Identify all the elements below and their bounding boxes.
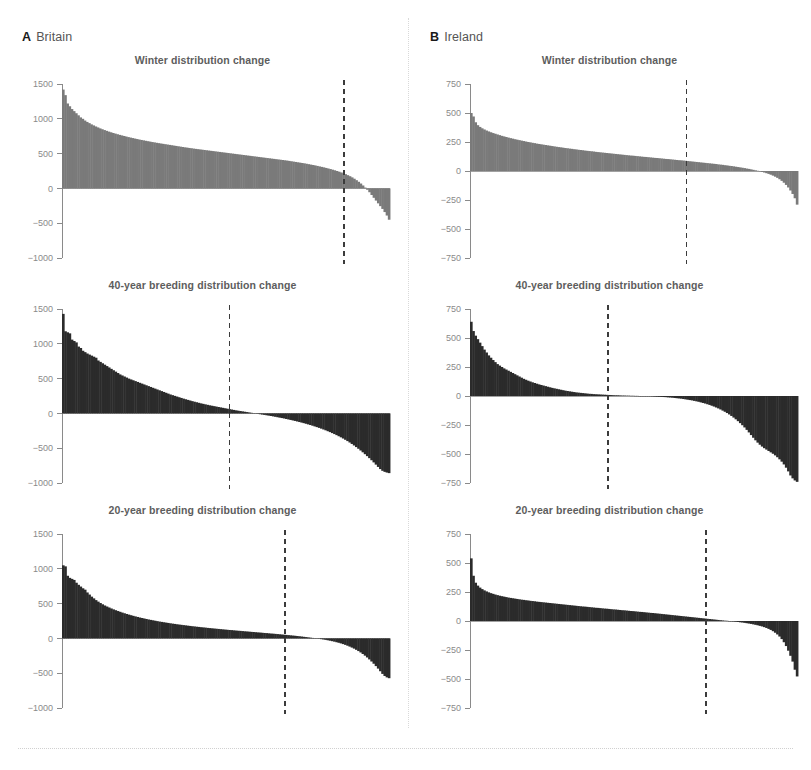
svg-text:−1000: −1000 <box>28 478 53 488</box>
chart-title-ireland-40yr: 40-year breeding distribution change <box>408 279 811 291</box>
chart-block-ireland-winter: Winter distribution change 7505002500−25… <box>408 50 811 275</box>
svg-text:1000: 1000 <box>33 564 53 574</box>
svg-text:−500: −500 <box>441 674 461 684</box>
svg-text:−250: −250 <box>441 645 461 655</box>
svg-text:0: 0 <box>456 616 461 626</box>
svg-text:−500: −500 <box>441 449 461 459</box>
svg-text:−1000: −1000 <box>28 703 53 713</box>
svg-text:0: 0 <box>48 409 53 419</box>
panel-letter-a: A <box>22 30 31 44</box>
svg-text:1500: 1500 <box>33 79 53 89</box>
svg-text:500: 500 <box>38 374 53 384</box>
svg-text:500: 500 <box>446 333 461 343</box>
svg-text:0: 0 <box>456 391 461 401</box>
chart-canvas-britain-winter: 150010005000−500−1000 <box>0 76 405 271</box>
svg-text:750: 750 <box>446 304 461 314</box>
svg-text:−500: −500 <box>33 443 53 453</box>
svg-text:1000: 1000 <box>33 339 53 349</box>
chart-block-britain-winter: Winter distribution change 150010005000−… <box>0 50 405 275</box>
svg-text:−750: −750 <box>441 478 461 488</box>
svg-text:750: 750 <box>446 79 461 89</box>
panel-header-britain: ABritain <box>22 30 72 44</box>
chart-block-britain-40yr: 40-year breeding distribution change 150… <box>0 275 405 500</box>
chart-title-britain-40yr: 40-year breeding distribution change <box>0 279 405 291</box>
svg-text:0: 0 <box>48 184 53 194</box>
svg-text:−500: −500 <box>33 218 53 228</box>
chart-title-britain-20yr: 20-year breeding distribution change <box>0 504 405 516</box>
svg-text:250: 250 <box>446 362 461 372</box>
svg-text:500: 500 <box>38 149 53 159</box>
svg-text:−750: −750 <box>441 253 461 263</box>
chart-title-ireland-20yr: 20-year breeding distribution change <box>408 504 811 516</box>
svg-text:500: 500 <box>446 558 461 568</box>
chart-canvas-britain-20yr: 150010005000−500−1000 <box>0 526 405 721</box>
svg-text:500: 500 <box>446 108 461 118</box>
chart-title-britain-winter: Winter distribution change <box>0 54 405 66</box>
chart-canvas-ireland-winter: 7505002500−250−500−750 <box>408 76 811 271</box>
panel-header-ireland: BIreland <box>430 30 483 44</box>
panel-region-britain: Britain <box>36 30 72 44</box>
chart-block-ireland-20yr: 20-year breeding distribution change 750… <box>408 500 811 740</box>
svg-text:−500: −500 <box>441 224 461 234</box>
chart-canvas-ireland-40yr: 7505002500−250−500−750 <box>408 301 811 496</box>
svg-text:250: 250 <box>446 587 461 597</box>
figure-root: ABritain Winter distribution change 1500… <box>0 0 811 770</box>
svg-text:−750: −750 <box>441 703 461 713</box>
svg-text:1500: 1500 <box>33 304 53 314</box>
svg-text:0: 0 <box>456 166 461 176</box>
svg-text:−500: −500 <box>33 668 53 678</box>
panel-letter-b: B <box>430 30 439 44</box>
bottom-rule <box>18 748 793 749</box>
svg-text:−1000: −1000 <box>28 253 53 263</box>
svg-text:0: 0 <box>48 634 53 644</box>
svg-text:500: 500 <box>38 599 53 609</box>
panel-ireland: BIreland Winter distribution change 7505… <box>408 0 811 740</box>
chart-block-britain-20yr: 20-year breeding distribution change 150… <box>0 500 405 740</box>
chart-title-ireland-winter: Winter distribution change <box>408 54 811 66</box>
svg-text:−250: −250 <box>441 420 461 430</box>
panel-region-ireland: Ireland <box>444 30 483 44</box>
chart-canvas-ireland-20yr: 7505002500−250−500−750 <box>408 526 811 721</box>
svg-text:1500: 1500 <box>33 529 53 539</box>
svg-text:250: 250 <box>446 137 461 147</box>
svg-text:1000: 1000 <box>33 114 53 124</box>
chart-canvas-britain-40yr: 150010005000−500−1000 <box>0 301 405 496</box>
panel-britain: ABritain Winter distribution change 1500… <box>0 0 405 740</box>
svg-text:750: 750 <box>446 529 461 539</box>
chart-block-ireland-40yr: 40-year breeding distribution change 750… <box>408 275 811 500</box>
svg-text:−250: −250 <box>441 195 461 205</box>
